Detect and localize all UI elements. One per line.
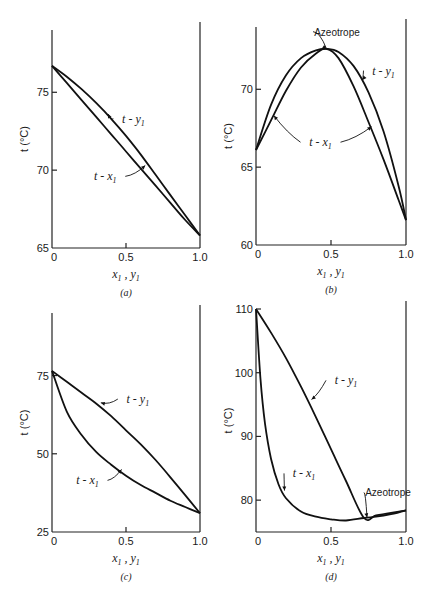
x-axis-label: x1 , y1 bbox=[111, 551, 140, 567]
annotation-azeotrope: Azeotrope bbox=[314, 27, 360, 38]
panel-caption: (a) bbox=[120, 287, 132, 299]
x-tick-label: 0 bbox=[255, 535, 261, 547]
panel-caption: (b) bbox=[325, 284, 337, 296]
annotation-leader bbox=[341, 127, 372, 143]
x-tick-label: 0.5 bbox=[118, 535, 133, 547]
panel-a: 65707500.51.0t (°C)x1 , y1(a)t - y1t - x… bbox=[18, 22, 208, 299]
arrowhead-icon bbox=[282, 486, 286, 490]
x-tick-label: 1.0 bbox=[398, 535, 413, 547]
annotation-t-x1: t - x1 bbox=[293, 466, 316, 482]
y-tick-label: 100 bbox=[235, 367, 253, 379]
y-tick-label: 90 bbox=[241, 430, 253, 442]
panel-caption: (c) bbox=[120, 571, 132, 583]
y-tick-label: 70 bbox=[241, 83, 253, 95]
y-tick-label: 110 bbox=[235, 303, 253, 315]
annotation-t-x1: t - x1 bbox=[94, 169, 117, 185]
x-tick-label: 0 bbox=[51, 535, 57, 547]
y-axis-label: t (°C) bbox=[222, 408, 234, 434]
panel-caption: (d) bbox=[325, 571, 337, 583]
y-tick-label: 60 bbox=[241, 239, 253, 251]
y-tick-label: 50 bbox=[37, 448, 49, 460]
x-tick-label: 0.5 bbox=[323, 535, 338, 547]
annotation-t-y1: t - y1 bbox=[335, 373, 358, 389]
panel-c: 25507500.51.0t (°C)x1 , y1(c)t - y1t - x… bbox=[18, 305, 208, 583]
y-tick-label: 25 bbox=[37, 526, 49, 538]
x-axis-label: x1 , y1 bbox=[111, 267, 140, 283]
x-tick-label: 0 bbox=[51, 251, 57, 263]
annotation-t-x1: t - x1 bbox=[309, 135, 332, 151]
curve-t-x1 bbox=[52, 66, 200, 236]
arrowhead-icon bbox=[101, 402, 105, 406]
y-tick-label: 75 bbox=[37, 86, 49, 98]
y-axis-label: t (°C) bbox=[18, 410, 30, 436]
annotation-leader bbox=[274, 116, 301, 142]
x-tick-label: 1.0 bbox=[192, 251, 207, 263]
panel-d: 809010011000.51.0t (°C)x1 , y1(d)t - y1t… bbox=[222, 301, 414, 583]
y-axis-label: t (°C) bbox=[18, 126, 30, 152]
panel-b: 60657000.51.0t (°C)x1 , y1(b)Azeotropet … bbox=[222, 19, 414, 296]
annotation-t-y1: t - y1 bbox=[127, 392, 150, 408]
x-tick-label: 0.5 bbox=[323, 248, 338, 260]
annotation-t-y1: t - y1 bbox=[372, 64, 395, 80]
x-tick-label: 0 bbox=[255, 248, 261, 260]
annotation-t-y1: t - y1 bbox=[122, 112, 145, 128]
annotation-t-x1: t - x1 bbox=[76, 473, 99, 489]
x-tick-label: 0.5 bbox=[118, 251, 133, 263]
annotation-azeotrope: Azeotrope bbox=[365, 487, 411, 498]
x-axis-label: x1 , y1 bbox=[316, 264, 345, 280]
y-axis-label: t (°C) bbox=[222, 123, 234, 149]
x-axis-label: x1 , y1 bbox=[316, 551, 345, 567]
figure: 65707500.51.0t (°C)x1 , y1(a)t - y1t - x… bbox=[0, 0, 434, 599]
x-tick-label: 1.0 bbox=[398, 248, 413, 260]
y-tick-label: 70 bbox=[37, 164, 49, 176]
y-tick-label: 65 bbox=[37, 242, 49, 254]
x-tick-label: 1.0 bbox=[192, 535, 207, 547]
y-tick-label: 65 bbox=[241, 161, 253, 173]
y-tick-label: 75 bbox=[37, 370, 49, 382]
y-tick-label: 80 bbox=[241, 494, 253, 506]
